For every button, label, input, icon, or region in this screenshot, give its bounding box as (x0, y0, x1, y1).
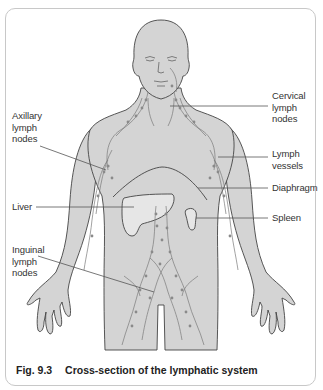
label-line: Inguinal (12, 244, 44, 256)
label-line: nodes (12, 133, 42, 145)
label-line: vessels (272, 160, 303, 172)
label-lymph-vessels: Lymph vessels (272, 148, 303, 171)
label-line: nodes (12, 267, 44, 279)
label-line: nodes (272, 113, 306, 125)
label-inguinal-lymph-nodes: Inguinal lymph nodes (12, 244, 44, 279)
figure-title: Cross-section of the lymphatic system (65, 364, 258, 376)
label-line: Lymph (272, 148, 303, 160)
label-axillary-lymph-nodes: Axillary lymph nodes (12, 110, 42, 145)
label-line: lymph (12, 122, 42, 134)
label-spleen: Spleen (272, 212, 301, 224)
lymphatic-system-illustration (0, 0, 323, 390)
body-silhouette (27, 20, 295, 350)
figure-caption: Fig. 9.3 Cross-section of the lymphatic … (16, 364, 258, 376)
label-line: Cervical (272, 90, 306, 102)
label-line: lymph (272, 102, 306, 114)
label-cervical-lymph-nodes: Cervical lymph nodes (272, 90, 306, 125)
label-line: lymph (12, 256, 44, 268)
label-liver: Liver (12, 201, 32, 213)
label-line: Axillary (12, 110, 42, 122)
label-diaphragm: Diaphragm (272, 182, 318, 194)
figure-number: Fig. 9.3 (16, 364, 52, 376)
